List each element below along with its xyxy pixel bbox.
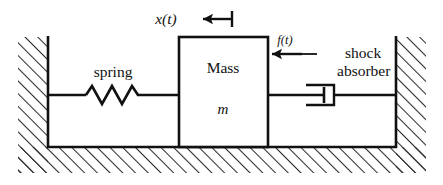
ground-hatch xyxy=(18,147,426,173)
damper-label-line2: absorber xyxy=(337,62,391,79)
spring-coil xyxy=(86,86,138,104)
damper-label-line1: shock xyxy=(345,44,381,61)
force-label: f(t) xyxy=(277,33,292,47)
mass-spring-damper-diagram: x(t) f(t) spring Mass m shock absorber xyxy=(0,0,443,185)
spring-label: spring xyxy=(94,63,133,80)
spring-element xyxy=(48,86,180,104)
mass-block-outline xyxy=(179,37,268,147)
damper-element xyxy=(268,85,396,105)
force-annotation: f(t) xyxy=(272,33,317,54)
displacement-annotation: x(t) xyxy=(154,10,232,28)
figure-canvas: x(t) f(t) spring Mass m shock absorber xyxy=(0,0,443,185)
mass-symbol-label: m xyxy=(218,101,229,117)
mass-block xyxy=(179,37,268,147)
mass-label: Mass xyxy=(207,59,240,76)
displacement-label: x(t) xyxy=(154,10,177,28)
